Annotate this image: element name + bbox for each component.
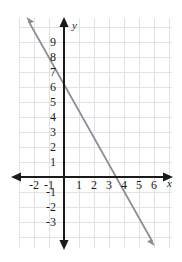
x-tick-label-4: 4 (117, 179, 131, 191)
y-tick-label-neg3: -3 (42, 216, 60, 228)
y-tick-label-neg2: -2 (42, 201, 60, 213)
x-tick-label-6: 6 (147, 179, 161, 191)
y-tick-label-6: 6 (47, 81, 59, 93)
x-tick-label-neg2: -2 (26, 179, 42, 191)
y-tick-label-1: 1 (47, 156, 59, 168)
y-tick-label-9: 9 (47, 36, 59, 48)
y-tick-label-4: 4 (47, 111, 59, 123)
y-tick-label-5: 5 (47, 96, 59, 108)
coordinate-plane (0, 0, 182, 262)
x-tick-label-5: 5 (132, 179, 146, 191)
graph-screenshot: y x -2 -1 1 2 3 4 5 6 9 8 7 6 5 4 3 2 1 … (0, 0, 182, 262)
y-tick-label-7: 7 (47, 66, 59, 78)
x-tick-label-3: 3 (102, 179, 116, 191)
x-tick-label-1: 1 (72, 179, 86, 191)
y-tick-label-2: 2 (47, 141, 59, 153)
x-axis-name: x (167, 178, 172, 189)
y-tick-label-8: 8 (47, 51, 59, 63)
y-tick-label-3: 3 (47, 126, 59, 138)
x-tick-label-2: 2 (87, 179, 101, 191)
y-tick-label-neg1: -1 (42, 186, 60, 198)
y-axis-name: y (72, 20, 77, 31)
